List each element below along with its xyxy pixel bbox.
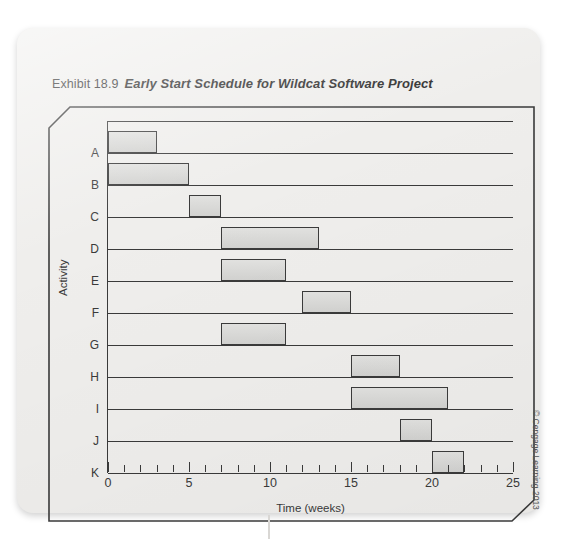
x-axis: 0510152025 xyxy=(108,472,513,473)
y-axis-tick-label: J xyxy=(93,434,99,448)
activity-baseline xyxy=(108,153,513,154)
activity-baseline xyxy=(108,249,513,250)
gantt-bar xyxy=(221,259,286,281)
y-axis-tick-label: H xyxy=(90,370,99,384)
x-axis-minor-tick xyxy=(367,465,368,472)
gantt-bar xyxy=(221,227,318,249)
figure-card: Exhibit 18.9Early Start Schedule for Wil… xyxy=(17,28,540,513)
gantt-bar xyxy=(189,195,221,217)
y-axis-tick-label: C xyxy=(90,210,99,224)
x-axis-tick-label: 5 xyxy=(186,476,193,490)
y-axis-tick-label: I xyxy=(96,402,99,416)
y-axis-tick-label: K xyxy=(91,466,99,480)
exhibit-caption: Early Start Schedule for Wildcat Softwar… xyxy=(125,76,433,91)
activity-baseline xyxy=(108,217,513,218)
x-axis-tick-label: 15 xyxy=(344,476,358,490)
gantt-bar xyxy=(108,131,157,153)
exhibit-number: Exhibit 18.9 xyxy=(52,77,119,91)
x-axis-minor-tick xyxy=(497,465,498,472)
x-axis-minor-tick xyxy=(254,465,255,472)
gantt-bar xyxy=(108,163,189,185)
x-axis-minor-tick xyxy=(286,465,287,472)
gantt-bar xyxy=(302,291,351,313)
activity-baseline xyxy=(108,441,513,442)
x-axis-minor-tick xyxy=(481,465,482,472)
page-background: Exhibit 18.9Early Start Schedule for Wil… xyxy=(0,0,569,539)
y-axis-tick-label: G xyxy=(90,338,99,352)
gantt-bar xyxy=(400,419,432,441)
activity-baseline xyxy=(108,377,513,378)
x-axis-minor-tick xyxy=(221,465,222,472)
x-axis-major-tick xyxy=(270,462,271,472)
x-axis-minor-tick xyxy=(464,465,465,472)
y-axis-title: Activity xyxy=(57,260,69,296)
x-axis-minor-tick xyxy=(302,465,303,472)
x-axis-minor-tick xyxy=(140,465,141,472)
x-axis-title: Time (weeks) xyxy=(108,502,513,514)
x-axis-minor-tick xyxy=(173,465,174,472)
x-axis-major-tick xyxy=(189,462,190,472)
y-axis-tick-label: A xyxy=(91,146,99,160)
activity-baseline xyxy=(108,473,513,474)
x-axis-minor-tick xyxy=(319,465,320,472)
x-axis-tick-label: 25 xyxy=(506,476,520,490)
x-axis-minor-tick xyxy=(124,465,125,472)
x-axis-minor-tick xyxy=(335,465,336,472)
gantt-plot-area: ABCDEFGHIJK xyxy=(108,121,513,473)
gantt-bar xyxy=(351,355,400,377)
x-axis-major-tick xyxy=(432,462,433,472)
x-axis-minor-tick xyxy=(157,465,158,472)
x-axis-minor-tick xyxy=(416,465,417,472)
activity-baseline xyxy=(108,185,513,186)
x-axis-minor-tick xyxy=(448,465,449,472)
x-axis-tick-label: 20 xyxy=(425,476,439,490)
y-axis-tick-label: D xyxy=(90,242,99,256)
x-axis-tick-label: 10 xyxy=(263,476,277,490)
x-axis-tick-label: 0 xyxy=(105,476,112,490)
x-axis-minor-tick xyxy=(400,465,401,472)
activity-baseline xyxy=(108,345,513,346)
x-axis-minor-tick xyxy=(205,465,206,472)
gantt-bar xyxy=(351,387,448,409)
copyright-credit: © Cengage Learning 2013 xyxy=(531,410,541,510)
y-axis-tick-label: B xyxy=(91,178,99,192)
x-axis-minor-tick xyxy=(383,465,384,472)
x-axis-major-tick xyxy=(351,462,352,472)
x-axis-minor-tick xyxy=(238,465,239,472)
plot-top-rule xyxy=(108,121,513,122)
page-edge-marker xyxy=(268,515,270,539)
figure-title: Exhibit 18.9Early Start Schedule for Wil… xyxy=(52,76,433,91)
y-axis-tick-label: E xyxy=(91,274,99,288)
x-axis-major-tick xyxy=(108,462,109,472)
activity-baseline xyxy=(108,409,513,410)
activity-baseline xyxy=(108,313,513,314)
x-axis-major-tick xyxy=(513,462,514,472)
y-axis-tick-label: F xyxy=(92,306,99,320)
activity-baseline xyxy=(108,281,513,282)
gantt-bar xyxy=(221,323,286,345)
